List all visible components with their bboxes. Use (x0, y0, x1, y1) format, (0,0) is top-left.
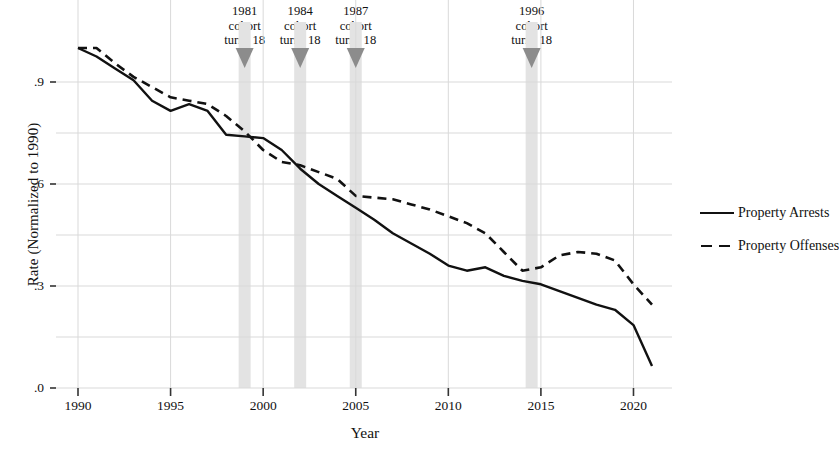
cohort-arrow-icon-cohort-1996 (523, 48, 541, 68)
legend-label-property-offenses: Property Offenses (738, 229, 839, 262)
cohort-arrow-icon-cohort-1981 (236, 48, 254, 68)
cohort-band-cohort-1984 (294, 22, 306, 388)
series-line-property-arrests (78, 48, 652, 366)
chart-legend: Property Arrests Property Offenses (700, 196, 839, 262)
legend-item-property-offenses: Property Offenses (700, 229, 839, 262)
cohort-band-cohort-1996 (526, 22, 538, 388)
legend-label-property-arrests: Property Arrests (738, 196, 829, 229)
cohort-arrow-icon-cohort-1984 (291, 48, 309, 68)
legend-item-property-arrests: Property Arrests (700, 196, 839, 229)
legend-key-solid-line-icon (700, 206, 734, 220)
legend-key-dashed-line-icon (700, 239, 734, 253)
cohort-arrow-icon-cohort-1987 (347, 48, 365, 68)
series-line-property-offenses (78, 48, 652, 305)
cohort-band-cohort-1981 (239, 22, 251, 388)
